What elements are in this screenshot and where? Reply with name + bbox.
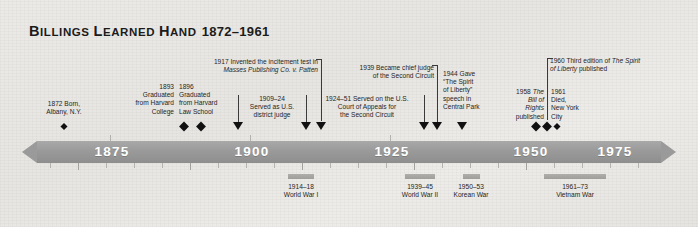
book-title-rights: Rights: [525, 104, 544, 111]
book-title-bill-of: Bill of: [528, 96, 544, 103]
timeline-infographic: BILLINGS LEARNED HAND1872–1961 1872 Born…: [0, 0, 698, 227]
marker-second-circuit-start: [301, 122, 311, 130]
marker-harvard-college: [179, 122, 189, 132]
tick-bottom-10: [302, 163, 303, 170]
axis-tick-1900: 1900: [235, 144, 270, 159]
marker-born: [60, 123, 67, 130]
axis-tick-1975: 1975: [598, 144, 633, 159]
tick-bottom-3: [106, 163, 107, 168]
annotation-spirit-speech: 1944 Gave “The Spirit of Liberty” speech…: [443, 70, 497, 111]
tick-bottom-13: [386, 163, 387, 168]
tick-bottom-20: [582, 163, 583, 168]
war-label-korean-war: 1950–53 Korean War: [454, 183, 489, 199]
annotation-died: 1961 Died, New York City: [551, 88, 597, 121]
axis-arrow-right-icon: [661, 141, 676, 163]
tick-bottom-2: [78, 163, 79, 170]
leader-line-district-left: [238, 95, 239, 123]
book-title-spirit: The Spirit: [612, 57, 640, 64]
marker-chief-judge: [432, 122, 442, 130]
marker-district-judge: [233, 122, 243, 130]
title-initial-h: H: [159, 23, 170, 39]
war-label-world-war-i: 1914–18 World War I: [284, 183, 318, 199]
case-name-italic: Masses Publishing Co. v. Patten: [224, 66, 318, 73]
marker-second-circuit-end: [419, 122, 429, 130]
axis-arrow-left-icon: [22, 141, 37, 163]
annotation-third-edition: 1960 Third edition of The Spirit of Libe…: [550, 57, 680, 73]
tick-bottom-11: [330, 163, 331, 168]
tick-bottom-12: [358, 163, 359, 168]
marker-harvard-law: [196, 122, 206, 132]
tick-bottom-8: [246, 163, 247, 168]
tick-bottom-5: [162, 163, 163, 168]
leader-line-circuit-right: [424, 95, 425, 123]
title-initial-b: B: [29, 23, 40, 39]
leader-tip-chief-judge: [432, 65, 438, 66]
war-bar-vietnam-war: [544, 174, 606, 179]
title-word-learned: EARNED: [103, 26, 159, 38]
tick-bottom-1: [50, 163, 51, 168]
war-label-vietnam-war: 1961–73 Vietnam War: [556, 183, 594, 199]
annotation-second-circuit: 1924–51 Served on the U.S. Court of Appe…: [312, 95, 422, 120]
tick-bottom-21: [610, 163, 611, 168]
axis-tick-1950: 1950: [514, 144, 549, 159]
tick-bottom-6: [190, 163, 191, 170]
war-bar-korean-war: [463, 174, 480, 179]
marker-spirit-speech: [457, 122, 467, 130]
leader-line-third-edition: [547, 58, 548, 120]
tick-bottom-15: [442, 163, 443, 168]
page-title: BILLINGS LEARNED HAND1872–1961: [29, 22, 269, 40]
axis-tick-1875: 1875: [95, 144, 130, 159]
marker-third-edition: [542, 122, 552, 132]
war-bar-world-war-i: [288, 174, 314, 179]
marker-died: [553, 123, 560, 130]
war-bar-world-war-ii: [405, 174, 435, 179]
tick-bottom-9: [274, 163, 275, 168]
annotation-harvard-law: 1896 Graduated from Harvard Law School: [179, 83, 233, 116]
marker-bill-of-rights: [531, 122, 541, 132]
book-title-of-liberty: of Liberty: [550, 65, 577, 72]
annotation-chief-judge: 1939 Became chief judge of the Second Ci…: [330, 64, 434, 80]
axis-bar: 1875 1900 1925 1950 1975: [37, 141, 661, 163]
annotation-harvard-college: 1893 Graduated from Harvard College: [124, 83, 174, 116]
title-life-years: 1872–1961: [202, 24, 270, 39]
tick-bottom-7: [218, 163, 219, 168]
book-title-the: The: [533, 88, 544, 95]
annotation-district-judge: 1909–24 Served as U.S. district judge: [239, 95, 305, 120]
leader-tip-masses: [316, 59, 322, 60]
tick-bottom-22: [638, 163, 639, 168]
tick-bottom-14: [414, 163, 415, 170]
annotation-masses-publishing: 1917 Invented the incitement test in Mas…: [190, 58, 318, 74]
annotation-bill-of-rights: 1958 The Bill of Rights published: [500, 88, 544, 121]
war-label-world-war-ii: 1939–45 World War II: [402, 183, 438, 199]
title-word-billings: ILLINGS: [40, 26, 93, 38]
leader-line-district-right: [306, 95, 307, 123]
marker-masses-publishing: [316, 122, 326, 130]
tick-bottom-4: [134, 163, 135, 168]
annotation-born: 1872 Born, Albany, N.Y.: [34, 100, 94, 116]
title-word-hand: AND: [170, 26, 197, 38]
timeline-axis: 1875 1900 1925 1950 1975: [22, 141, 676, 163]
tick-bottom-18: [526, 163, 527, 170]
leader-line-chief-judge: [437, 65, 438, 123]
leader-tip-third-edition: [547, 58, 553, 59]
tick-bottom-16: [470, 163, 471, 168]
axis-tick-1925: 1925: [375, 144, 410, 159]
tick-bottom-17: [498, 163, 499, 168]
tick-bottom-19: [554, 163, 555, 168]
title-initial-l: L: [93, 23, 102, 39]
